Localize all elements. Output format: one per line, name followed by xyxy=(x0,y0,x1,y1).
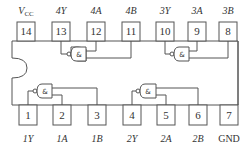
svg-text:11: 11 xyxy=(126,25,137,37)
gate-2: & xyxy=(132,84,198,105)
svg-text:2Y: 2Y xyxy=(127,133,139,144)
gate-3: & xyxy=(165,41,228,61)
bottom-pin-5: 5 2A xyxy=(157,105,175,144)
svg-text:12: 12 xyxy=(91,25,102,37)
top-pin-12: 12 4A xyxy=(87,5,105,41)
svg-text:7: 7 xyxy=(226,109,232,121)
top-pin-14: 14 VCC xyxy=(17,5,35,41)
gate-1: & xyxy=(28,84,97,105)
svg-text:3: 3 xyxy=(94,109,100,121)
svg-text:&: & xyxy=(145,88,151,96)
svg-text:2: 2 xyxy=(59,109,65,121)
top-pin-8: 8 3B xyxy=(219,5,237,41)
inverter-bubble-icon xyxy=(170,52,174,56)
svg-text:2B: 2B xyxy=(192,133,203,144)
inverter-bubble-icon xyxy=(33,89,37,93)
bottom-pin-7: 7 GND xyxy=(218,105,240,144)
bottom-pin-2: 2 1A xyxy=(53,105,71,144)
svg-text:GND: GND xyxy=(218,133,240,144)
inverter-bubble-icon xyxy=(136,89,140,93)
top-pin-10: 10 3Y xyxy=(156,5,174,41)
svg-text:3A: 3A xyxy=(190,5,203,16)
svg-text:3Y: 3Y xyxy=(159,5,172,16)
svg-text:4B: 4B xyxy=(125,5,136,16)
svg-text:1: 1 xyxy=(25,109,31,121)
top-pin-13: 13 4Y xyxy=(52,5,70,41)
top-pin-9: 9 3A xyxy=(188,5,206,41)
svg-text:1A: 1A xyxy=(56,133,68,144)
ic-pinout-diagram: 14 VCC 13 4Y 12 4A 11 4B 10 3Y 9 3A 8 3B… xyxy=(0,0,246,150)
svg-text:10: 10 xyxy=(160,25,172,37)
svg-text:4Y: 4Y xyxy=(56,5,68,16)
svg-text:5: 5 xyxy=(163,109,169,121)
svg-text:1Y: 1Y xyxy=(23,133,35,144)
svg-text:&: & xyxy=(76,51,82,59)
inverter-bubble-icon xyxy=(67,52,71,56)
svg-text:6: 6 xyxy=(195,109,201,121)
svg-text:4A: 4A xyxy=(90,5,102,16)
pin-label-vcc: VCC xyxy=(18,5,34,18)
svg-text:3B: 3B xyxy=(221,5,233,16)
svg-text:14: 14 xyxy=(21,25,33,37)
bottom-pin-4: 4 2Y xyxy=(123,105,141,144)
bottom-pin-1: 1 1Y xyxy=(19,105,37,144)
svg-text:2A: 2A xyxy=(160,133,172,144)
top-pin-11: 11 4B xyxy=(122,5,140,41)
bottom-pin-3: 3 1B xyxy=(88,105,106,144)
svg-text:9: 9 xyxy=(194,25,200,37)
svg-text:4: 4 xyxy=(129,109,135,121)
svg-text:&: & xyxy=(42,88,48,96)
svg-text:1B: 1B xyxy=(91,133,102,144)
svg-text:13: 13 xyxy=(56,25,68,37)
svg-text:&: & xyxy=(179,51,185,59)
gate-4: & xyxy=(61,41,131,61)
bottom-pin-6: 6 2B xyxy=(189,105,207,144)
svg-text:8: 8 xyxy=(225,25,231,37)
